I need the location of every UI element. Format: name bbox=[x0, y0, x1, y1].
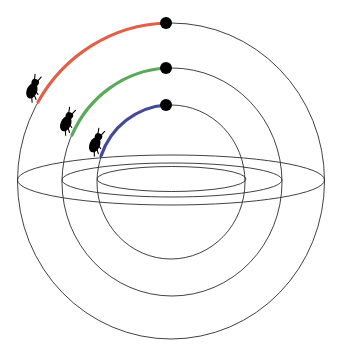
red-path-arc bbox=[38, 23, 166, 102]
blue-path-arc bbox=[101, 105, 166, 156]
dot-marker-outer bbox=[160, 17, 172, 29]
beetle-icon-inner bbox=[86, 128, 108, 158]
diagram-canvas: Beetles climbing nested hemispherical sh… bbox=[0, 0, 341, 353]
shells-diagram bbox=[0, 0, 341, 353]
dot-marker-inner bbox=[160, 99, 172, 111]
dot-marker-middle bbox=[160, 62, 172, 74]
beetle-icon-middle bbox=[57, 107, 79, 137]
inner-equator bbox=[97, 167, 246, 192]
